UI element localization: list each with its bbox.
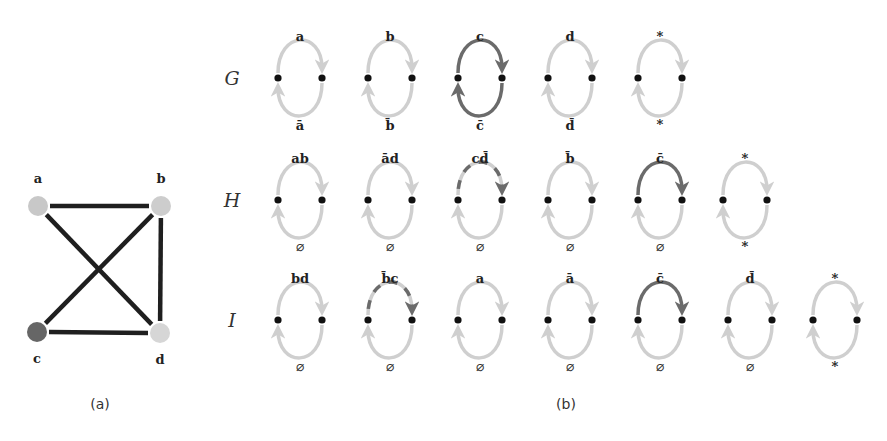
node-dot-left <box>454 74 461 81</box>
top-arc-arrow <box>723 162 767 195</box>
caption-a: (a) <box>90 396 110 412</box>
cycle-I-1: bd∅ <box>274 271 325 375</box>
node-dot-left <box>719 196 726 203</box>
bottom-arc-arrow <box>548 83 592 116</box>
cycle-G-5: ** <box>634 29 685 132</box>
top-arc-arrow <box>278 162 322 195</box>
cycle-I-6: d̄∅ <box>724 270 775 375</box>
bottom-label: b̄ <box>385 117 395 133</box>
node-dot-right <box>408 196 415 203</box>
top-arc-arrow <box>278 282 322 315</box>
cycle-H-6: ** <box>719 151 770 254</box>
cycle-H-4: b̄∅ <box>544 150 595 255</box>
edge-b-d <box>160 218 161 321</box>
bottom-arc-arrow <box>278 83 322 116</box>
bottom-label: ∅ <box>656 359 665 375</box>
node-dot-left <box>544 196 551 203</box>
cycle-G-2: bb̄ <box>364 29 415 133</box>
bottom-arc-arrow <box>368 205 412 238</box>
row-label-H: H <box>223 189 241 211</box>
top-label: ab <box>291 151 309 166</box>
bottom-label: ∅ <box>296 239 305 255</box>
top-arc-arrow <box>548 162 592 195</box>
bottom-label: ∅ <box>386 359 395 375</box>
cycle-H-2: ād∅ <box>364 151 415 255</box>
node-dot-left <box>364 74 371 81</box>
node-dot-right <box>318 74 325 81</box>
node-dot-right <box>678 74 685 81</box>
bottom-label: ā <box>296 118 305 133</box>
bottom-arc-arrow <box>368 83 412 116</box>
cycle-H-1: ab∅ <box>274 151 325 255</box>
node-dot-left <box>364 316 371 323</box>
row-H: Hab∅ād∅cd̄∅b̄∅c̄∅** <box>223 150 771 255</box>
vertex-a <box>28 196 48 216</box>
top-arc-arrow <box>813 282 857 315</box>
bottom-arc-arrow <box>278 205 322 238</box>
node-dot-right <box>768 316 775 323</box>
vertex-label-b: b <box>156 171 165 186</box>
vertex-label-c: c <box>33 351 41 366</box>
node-dot-right <box>678 316 685 323</box>
node-dot-left <box>809 316 816 323</box>
vertex-label-d: d <box>155 352 164 367</box>
node-dot-right <box>678 196 685 203</box>
node-dot-left <box>364 196 371 203</box>
top-arc-arrow <box>548 40 592 73</box>
top-arc-arrow <box>548 282 592 315</box>
cycle-I-2: b̄c∅ <box>364 270 415 375</box>
top-arc-arrow <box>638 162 682 195</box>
cycle-G-4: dd̄ <box>544 29 595 133</box>
node-dot-left <box>274 74 281 81</box>
top-label: bd <box>291 271 309 286</box>
node-dot-left <box>634 74 641 81</box>
top-label: a <box>476 271 485 286</box>
node-dot-left <box>274 196 281 203</box>
node-dot-right <box>408 74 415 81</box>
node-dot-right <box>588 74 595 81</box>
node-dot-right <box>498 196 505 203</box>
cycle-I-3: a∅ <box>454 271 505 375</box>
bottom-label: c̄ <box>476 118 484 133</box>
top-label: c̄ <box>656 271 664 286</box>
top-arc-arrow <box>368 162 412 195</box>
bottom-arc-arrow <box>278 325 322 358</box>
bottom-arc-arrow <box>638 205 682 238</box>
bottom-arc-arrow <box>723 205 767 238</box>
node-dot-right <box>498 316 505 323</box>
row-I: Ibd∅b̄c∅a∅ā∅c̄∅d̄∅** <box>227 270 860 375</box>
node-dot-left <box>724 316 731 323</box>
top-label: a <box>296 29 305 44</box>
cycle-H-5: c̄∅ <box>634 151 685 255</box>
node-dot-right <box>498 74 505 81</box>
top-label: c <box>476 29 484 44</box>
bottom-label: * <box>742 239 749 254</box>
top-label: b̄ <box>565 150 575 166</box>
node-dot-right <box>318 316 325 323</box>
bottom-label: ∅ <box>386 239 395 255</box>
bottom-label: ∅ <box>476 359 485 375</box>
node-dot-left <box>274 316 281 323</box>
node-dot-right <box>588 196 595 203</box>
top-label: * <box>657 29 664 44</box>
top-label: c̄ <box>656 151 664 166</box>
bottom-label: ∅ <box>296 359 305 375</box>
cycle-G-3: cc̄ <box>454 29 505 133</box>
bottom-arc-arrow <box>548 325 592 358</box>
bottom-arc-arrow <box>638 325 682 358</box>
bottom-label: ∅ <box>746 359 755 375</box>
node-dot-left <box>634 316 641 323</box>
cycle-H-3: cd̄∅ <box>454 150 505 255</box>
top-label: cd̄ <box>471 150 488 166</box>
vertex-c <box>27 322 47 342</box>
row-G: Gaābb̄cc̄dd̄** <box>224 29 685 133</box>
top-arc-arrow <box>458 40 502 73</box>
vertex-label-a: a <box>34 171 43 186</box>
bottom-arc-arrow <box>728 325 772 358</box>
bottom-arc-arrow <box>458 83 502 116</box>
cycle-I-4: ā∅ <box>544 271 595 375</box>
node-dot-right <box>318 196 325 203</box>
row-label-I: I <box>227 309 236 331</box>
bottom-arc-arrow <box>458 325 502 358</box>
top-arc-arrow <box>458 282 502 315</box>
